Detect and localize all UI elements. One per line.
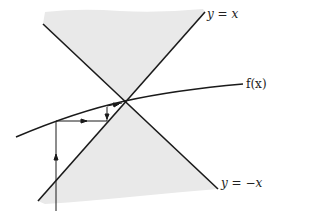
label-text: y = x [207,7,238,21]
label-y-equals-x: y = x [207,8,238,20]
label-f-of-x: f(x) [246,78,267,90]
arrow-right-icon [113,103,119,107]
shaded-region-upper [43,9,205,101]
arrow-right-icon [81,119,87,123]
label-text: y = −x [221,176,262,190]
shaded-region-lower [38,101,218,204]
label-text: f(x) [246,77,267,91]
arrow-down-icon [105,114,109,119]
label-y-equals-neg-x: y = −x [221,177,262,189]
arrow-up-icon [54,154,58,160]
